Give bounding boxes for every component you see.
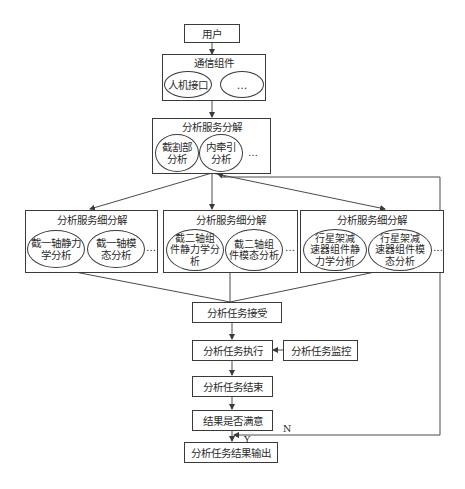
comm-title: 通信组件 <box>163 57 265 70</box>
decompose-item-cutting: 截割部 分析 <box>155 134 199 172</box>
edge-label-yes: Y <box>244 434 250 445</box>
sub1-item-modal: 截一轴模 态分析 <box>87 230 145 268</box>
sub3-item-static: 行星架减 速器组件静 力学分析 <box>303 229 367 271</box>
node-comm-component: 通信组件 人机接口 … <box>162 54 266 101</box>
sub1-more: … <box>146 242 155 253</box>
sub3-more: … <box>433 242 442 253</box>
comm-item-more: … <box>220 71 264 98</box>
node-task-monitor: 分析任务监控 <box>283 340 358 361</box>
node-result-output: 分析任务结果输出 <box>184 442 278 463</box>
sub2-item-static: 截二轴组 件静力学分 析 <box>166 229 224 271</box>
decompose-more: … <box>248 147 257 158</box>
node-task-accept: 分析任务接受 <box>192 302 282 323</box>
node-task-execute: 分析任务执行 <box>192 340 273 361</box>
sub3-item-modal: 行星架减 速器组件模 态分析 <box>368 229 432 271</box>
sub1-item-static: 截一轴静力 学分析 <box>27 230 85 268</box>
sub3-title: 分析服务细分解 <box>301 214 443 227</box>
sub2-title: 分析服务细分解 <box>164 214 297 227</box>
sub1-title: 分析服务细分解 <box>26 214 157 227</box>
sub2-item-modal: 截二轴组 件模态分析 <box>225 229 283 271</box>
decompose-item-traction: 内牵引 分析 <box>199 134 243 172</box>
node-sub-decompose-2: 分析服务细分解 截二轴组 件静力学分 析 截二轴组 件模态分析 … <box>163 210 298 273</box>
node-sub-decompose-3: 分析服务细分解 行星架减 速器组件静 力学分析 行星架减 速器组件模 态分析 … <box>300 210 444 273</box>
comm-item-hmi: 人机接口 <box>164 71 212 98</box>
edge-label-no: N <box>283 423 291 434</box>
node-sub-decompose-1: 分析服务细分解 截一轴静力 学分析 截一轴模 态分析 … <box>25 210 158 273</box>
node-user: 用户 <box>184 24 240 43</box>
node-result-satisfied: 结果是否满意 <box>192 410 273 431</box>
node-service-decompose: 分析服务分解 截割部 分析 内牵引 分析 … <box>152 118 271 174</box>
decompose-title: 分析服务分解 <box>153 121 270 134</box>
sub2-more: … <box>285 242 294 253</box>
node-task-finish: 分析任务结束 <box>192 376 273 397</box>
